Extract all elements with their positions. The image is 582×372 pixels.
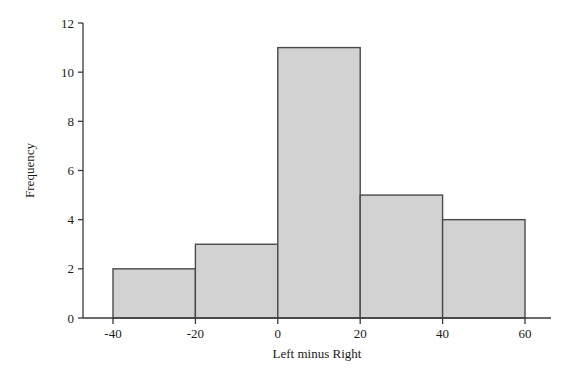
y-tick-label: 8 [68,114,75,129]
histogram-bar [195,244,277,318]
x-tick-label: -40 [104,326,121,341]
x-tick-label: 40 [436,326,449,341]
x-tick-label: 60 [519,326,532,341]
y-tick-label: 12 [61,16,74,31]
y-axis-title: Frequency [22,143,37,198]
x-tick-label: -20 [187,326,204,341]
y-tick-label: 2 [68,261,75,276]
x-tick-label: 0 [275,326,282,341]
x-axis-title: Left minus Right [273,346,362,361]
histogram-bar [360,195,442,318]
y-tick-label: 10 [61,65,74,80]
chart-canvas: 024681012 -40-200204060 Left minus Right… [0,0,582,372]
histogram-chart: 024681012 -40-200204060 Left minus Right… [0,0,582,372]
y-tick-label: 6 [68,163,75,178]
y-tick-label: 4 [68,212,75,227]
y-tick-label: 0 [68,311,75,326]
x-tick-label: 20 [354,326,367,341]
histogram-bar [113,269,195,318]
histogram-bar [443,220,525,318]
histogram-bar [278,48,360,318]
